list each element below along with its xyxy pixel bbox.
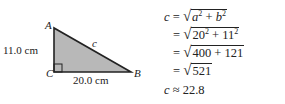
equation-line-1: c = √a2 + b2: [164, 8, 227, 24]
radicand: 521: [191, 63, 212, 78]
radicand: 400 + 121: [191, 45, 244, 60]
vertex-a-label: A: [45, 20, 52, 31]
equals-sign: =: [173, 28, 180, 42]
exponent: 2: [198, 9, 202, 18]
radical: √a2 + b2: [183, 8, 227, 25]
variable-c: c: [164, 10, 170, 24]
radical: √202 + 112: [183, 26, 239, 43]
equation-line-2: = √202 + 112: [173, 26, 239, 42]
vertex-c-label: C: [46, 68, 53, 79]
hypotenuse-label: c: [92, 38, 97, 49]
equation-line-3: = √400 + 121: [173, 44, 244, 60]
equation-line-4: = √521: [173, 62, 212, 78]
equals-sign: =: [173, 46, 180, 60]
triangle-shape: [54, 28, 131, 72]
plus-sign: +: [205, 10, 212, 24]
equation-line-5: c ≈ 22.8: [164, 82, 205, 98]
equals-sign: =: [173, 10, 180, 24]
exponent: 2: [222, 9, 226, 18]
number: 11: [222, 28, 234, 42]
equals-sign: =: [173, 64, 180, 78]
exponent: 2: [234, 27, 238, 36]
number: 20: [192, 28, 205, 42]
vertex-b-label: B: [134, 68, 141, 79]
side-ac-length: 11.0 cm: [3, 45, 38, 56]
variable-c: c: [164, 83, 170, 97]
result-value: 22.8: [183, 83, 205, 97]
radical: √521: [183, 62, 212, 79]
side-cb-length: 20.0 cm: [73, 75, 108, 86]
plus-sign: +: [212, 28, 219, 42]
exponent: 2: [205, 27, 209, 36]
radical: √400 + 121: [183, 44, 244, 61]
approx-sign: ≈: [173, 83, 180, 97]
